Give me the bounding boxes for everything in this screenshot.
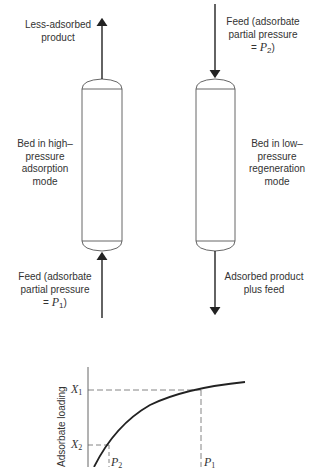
label-line: mode: [242, 176, 312, 189]
right-feed-label: Feed (adsorbate partial pressure = P2): [220, 16, 306, 58]
label-line: pressure: [12, 151, 78, 164]
label-line: = P2): [220, 41, 306, 58]
pressure-symbol: P: [52, 295, 59, 309]
x1-label: X1: [71, 382, 82, 397]
subscript: 2: [78, 443, 82, 452]
subscript: 1: [211, 461, 215, 470]
subscript: 1: [78, 388, 82, 397]
low-pressure-bed-label: Bed in low– pressure regeneration mode: [242, 138, 312, 188]
label-line: mode: [12, 176, 78, 189]
label-line: Feed (adsorbate: [12, 271, 98, 284]
label-line: Bed in low–: [242, 138, 312, 151]
isotherm-chart: [88, 367, 245, 467]
subscript: 2: [118, 461, 122, 470]
high-pressure-bed-label: Bed in high– pressure adsorption mode: [12, 138, 78, 188]
label-line: pressure: [242, 151, 312, 164]
left-feed-label: Feed (adsorbate partial pressure = P1): [12, 271, 98, 313]
close-paren: ): [64, 297, 67, 308]
label-line: product: [22, 32, 94, 45]
p1-label: P1: [204, 455, 215, 470]
label-line: plus feed: [220, 284, 308, 297]
label-line: Less-adsorbed: [22, 19, 94, 32]
label-line: regeneration: [242, 163, 312, 176]
left-adsorber-vessel: [82, 79, 122, 251]
y-axis-label: Adsorbate loading: [56, 386, 67, 467]
label-line: Feed (adsorbate: [220, 16, 306, 29]
equals-sign: =: [43, 297, 52, 308]
equals-sign: =: [251, 42, 260, 53]
label-line: adsorption: [12, 163, 78, 176]
less-adsorbed-product-label: Less-adsorbed product: [22, 19, 94, 44]
label-line: Adsorbed product: [220, 271, 308, 284]
label-line: Bed in high–: [12, 138, 78, 151]
label-line: = P1): [12, 296, 98, 313]
p2-label: P2: [111, 455, 122, 470]
adsorbed-product-label: Adsorbed product plus feed: [220, 271, 308, 296]
close-paren: ): [272, 42, 275, 53]
x2-label: X2: [71, 437, 82, 452]
right-adsorber-vessel: [196, 79, 235, 251]
pressure-symbol: P: [260, 40, 267, 54]
